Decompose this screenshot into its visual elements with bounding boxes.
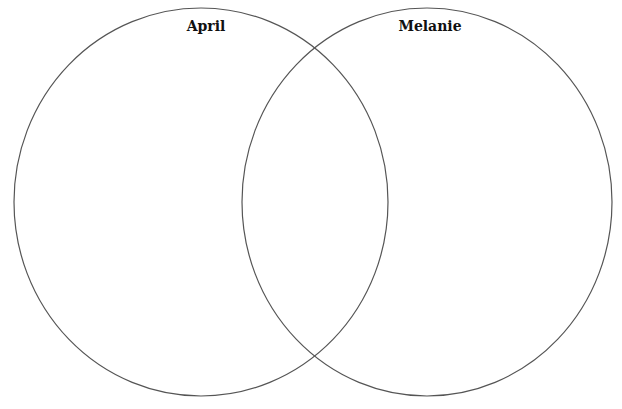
label-april: April bbox=[187, 18, 226, 34]
venn-svg bbox=[0, 0, 622, 409]
circle-melanie bbox=[242, 8, 612, 396]
label-melanie: Melanie bbox=[398, 18, 461, 34]
circle-april bbox=[14, 8, 388, 396]
